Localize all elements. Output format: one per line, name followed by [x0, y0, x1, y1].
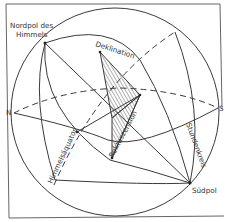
- celestial-equator-label: Himmelsäquator: [46, 127, 79, 185]
- south-pole-point: [189, 182, 192, 185]
- star-point: [99, 51, 102, 54]
- north-pole-label-line1: Nordpol des: [10, 21, 53, 30]
- south-pole-label: Südpol: [192, 186, 217, 195]
- equator-point: [139, 94, 142, 97]
- south-label: S: [219, 104, 224, 113]
- celestial-sphere-diagram: Nordpol des Himmels Südpol N S Deklinati…: [0, 0, 227, 222]
- north-pole-point: [44, 42, 47, 45]
- meridian-right: [175, 32, 195, 183]
- north-label: N: [6, 108, 11, 117]
- hour-circle-label: Stundenkreis: [184, 122, 209, 170]
- north-pole-label-line2: Himmels: [16, 30, 48, 39]
